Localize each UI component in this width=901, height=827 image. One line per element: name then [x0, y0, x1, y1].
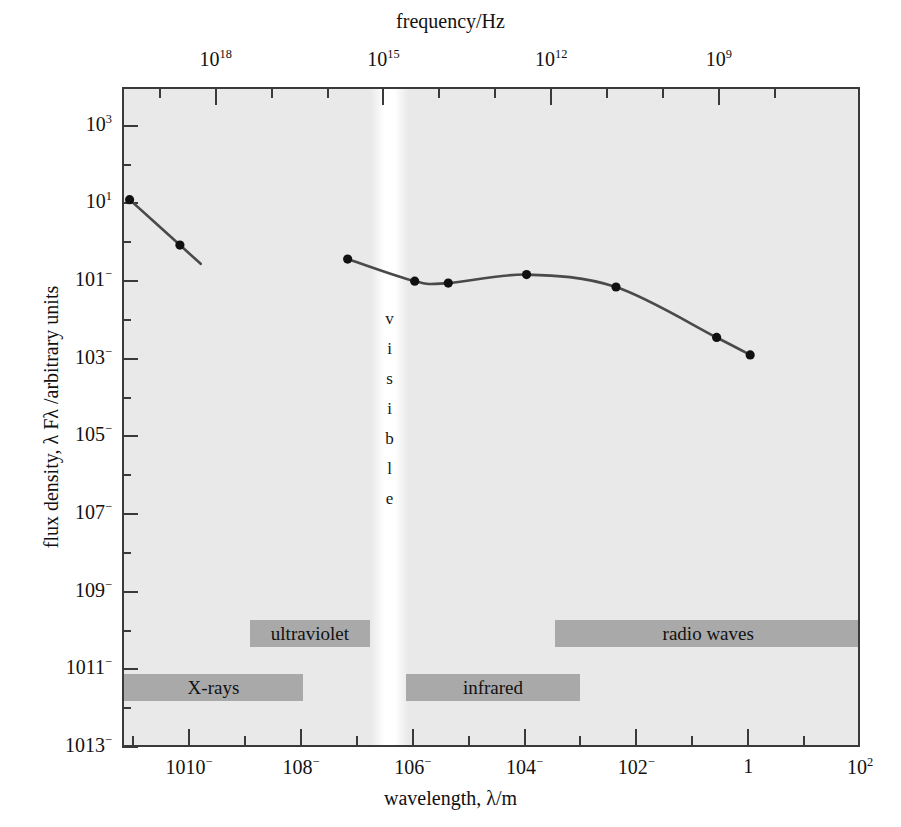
- y-tick-label: 107−: [4, 500, 112, 524]
- y-tick-label: 101−: [4, 267, 112, 291]
- data-point: [712, 333, 721, 342]
- x-tick-label: 102: [805, 755, 901, 779]
- top-tick-label: 1018: [161, 47, 271, 71]
- y-tick-label: 105−: [4, 422, 112, 446]
- curve-x-ray-segment: [130, 200, 201, 264]
- visible-letter: l: [384, 454, 395, 484]
- visible-letter: i: [384, 394, 395, 424]
- data-point: [410, 277, 419, 286]
- x-tick-label: 108−: [246, 755, 356, 779]
- visible-label: visible: [384, 304, 395, 514]
- data-point: [125, 195, 134, 204]
- visible-letter: b: [384, 424, 395, 454]
- visible-letter: i: [384, 334, 395, 364]
- data-point: [611, 282, 620, 291]
- y-tick-label: 1011−: [4, 655, 112, 679]
- y-tick-label: 103: [4, 112, 112, 136]
- visible-letter: s: [384, 364, 395, 394]
- x-tick-label: 1010−: [134, 755, 244, 779]
- data-point: [746, 350, 755, 359]
- top-axis-title: frequency/Hz: [0, 10, 901, 33]
- data-curves: [124, 89, 858, 745]
- y-tick: [122, 746, 138, 748]
- y-tick-label: 109−: [4, 578, 112, 602]
- y-tick-label: 101: [4, 189, 112, 213]
- data-point: [444, 279, 453, 288]
- data-point: [343, 254, 352, 263]
- x-tick-label: 106−: [358, 755, 468, 779]
- plot-inner: X-raysultravioletinfraredradio waves vis…: [124, 89, 858, 745]
- top-tick-label: 1012: [496, 47, 606, 71]
- visible-letter: v: [384, 304, 395, 334]
- x-tick-label: 104−: [470, 755, 580, 779]
- top-tick-label: 1015: [328, 47, 438, 71]
- top-tick-label: 109: [664, 47, 774, 71]
- visible-letter: e: [384, 484, 395, 514]
- y-tick-label: 103−: [4, 345, 112, 369]
- x-tick-label: 102−: [581, 755, 691, 779]
- curve-infrared-radio-segment: [348, 259, 751, 355]
- chart-figure: frequency/Hz flux density, λ Fλ /arbitra…: [0, 0, 901, 827]
- plot-area: X-raysultravioletinfraredradio waves vis…: [122, 87, 860, 747]
- x-axis-title: wavelength, λ/m: [0, 787, 901, 810]
- x-tick-label: 1: [693, 755, 803, 778]
- data-point: [522, 270, 531, 279]
- data-point: [175, 240, 184, 249]
- y-tick-label: 1013−: [4, 733, 112, 757]
